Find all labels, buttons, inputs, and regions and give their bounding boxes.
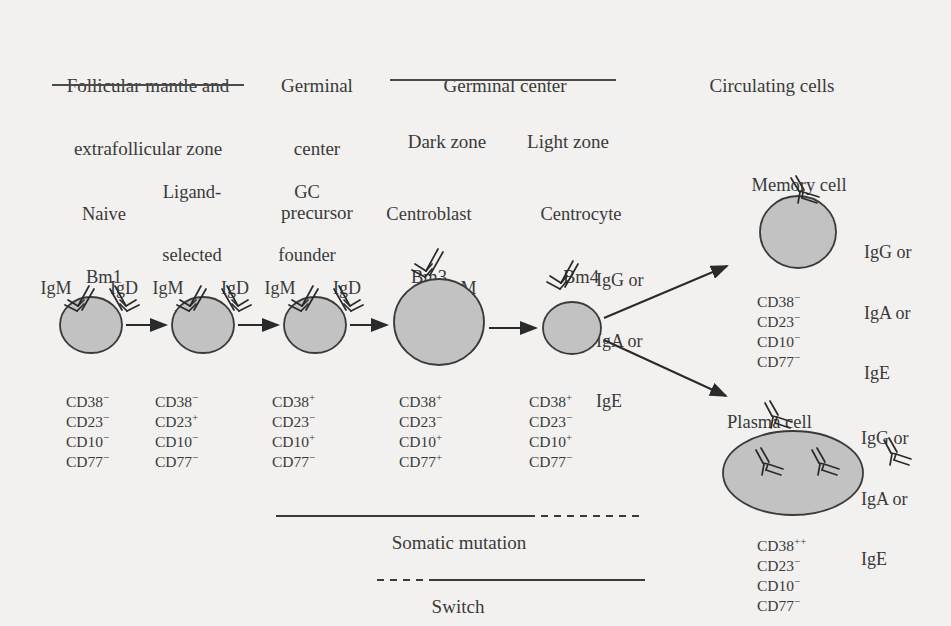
cell-body-naive — [60, 297, 122, 353]
cell-body-memory — [760, 196, 836, 268]
antibody-icon-plasma-secreted-2 — [884, 438, 911, 465]
antibody-icon-centrocyte — [547, 261, 578, 289]
diagram-vectors — [0, 0, 951, 626]
antibody-icon-centroblast-igm — [412, 249, 443, 277]
cell-body-plasma — [723, 431, 863, 515]
cell-body-centroblast — [394, 279, 484, 365]
antibody-icon-plasma-secreted-1 — [765, 401, 792, 428]
cell-body-ligand-selected — [172, 297, 234, 353]
arrow-centrocyte-to-memory — [604, 266, 727, 318]
cell-body-gc-founder — [284, 297, 346, 353]
figure-canvas: Follicular mantle and extrafollicular zo… — [0, 0, 951, 626]
cell-body-centrocyte — [543, 302, 601, 354]
arrow-centrocyte-to-plasma — [604, 340, 726, 396]
